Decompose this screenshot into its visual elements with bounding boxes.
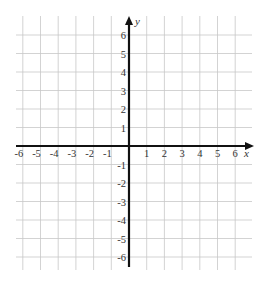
y-tick-label: 4	[121, 67, 127, 78]
x-tick-label: 2	[162, 148, 167, 159]
y-tick-label: -2	[117, 178, 126, 189]
x-tick-label: -3	[68, 148, 77, 159]
x-tick-label: 5	[215, 148, 220, 159]
x-tick-label: -4	[50, 148, 59, 159]
y-tick-label: -4	[117, 215, 126, 226]
x-tick-labels: -6-5-4-3-2-1123456	[14, 148, 237, 159]
y-tick-label: -5	[117, 234, 126, 245]
x-tick-label: -1	[103, 148, 112, 159]
y-axis-label: y	[134, 15, 140, 27]
x-tick-label: 6	[233, 148, 238, 159]
y-tick-label: 2	[121, 104, 126, 115]
coordinate-plane: -6-5-4-3-2-1123456 654321-1-2-3-4-5-6 x …	[0, 0, 258, 283]
x-tick-label: 1	[144, 148, 149, 159]
x-tick-label: -6	[14, 148, 23, 159]
y-axis-arrow-icon	[125, 16, 133, 25]
y-tick-label: 3	[121, 86, 126, 97]
y-tick-label: -3	[117, 197, 126, 208]
grid-lines	[16, 16, 252, 270]
y-tick-label: 1	[121, 123, 126, 134]
x-tick-label: -5	[32, 148, 41, 159]
y-tick-label: -1	[117, 160, 126, 171]
x-axis-label: x	[243, 147, 249, 159]
y-tick-label: 5	[121, 49, 126, 60]
y-tick-label: -6	[117, 252, 126, 263]
y-tick-label: 6	[121, 30, 126, 41]
x-tick-label: -2	[85, 148, 94, 159]
x-tick-label: 3	[179, 148, 184, 159]
x-tick-label: 4	[197, 148, 203, 159]
